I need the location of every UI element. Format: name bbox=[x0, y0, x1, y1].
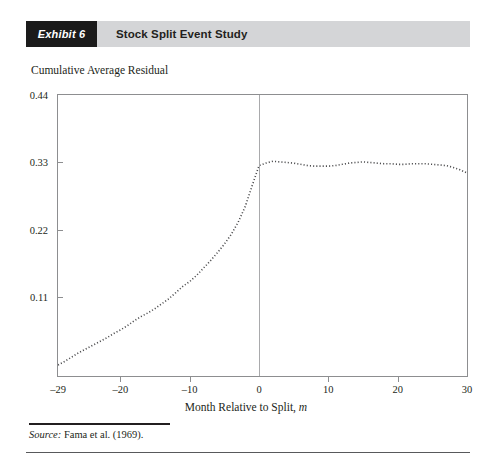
x-tick-label: 10 bbox=[323, 384, 334, 395]
x-tick-label: 0 bbox=[256, 384, 261, 395]
x-axis-title-text: Month Relative to Split, bbox=[185, 401, 299, 413]
plot-frame bbox=[57, 94, 468, 377]
car-series-line bbox=[58, 161, 467, 365]
x-tick-label: –10 bbox=[182, 384, 198, 395]
y-tick-label: 0.22 bbox=[30, 224, 48, 235]
x-tick-label: –29 bbox=[50, 384, 66, 395]
exhibit-header: Exhibit 6 Stock Split Event Study bbox=[26, 21, 470, 47]
y-tick-mark bbox=[57, 230, 63, 231]
exhibit-number-tag: Exhibit 6 bbox=[26, 21, 97, 47]
bottom-rule bbox=[26, 452, 470, 453]
x-axis-title: Month Relative to Split, m bbox=[0, 401, 492, 413]
y-tick-mark bbox=[57, 162, 63, 163]
source-note: Source: Fama et al. (1969). bbox=[29, 429, 144, 440]
x-tick-label: –20 bbox=[113, 384, 129, 395]
exhibit-title: Stock Split Event Study bbox=[97, 21, 470, 47]
event-line-at-split bbox=[259, 95, 260, 376]
x-tick-mark bbox=[190, 377, 191, 382]
car-curve-plot bbox=[58, 95, 467, 376]
exhibit-figure: Exhibit 6 Stock Split Event Study Cumula… bbox=[0, 0, 492, 470]
x-tick-mark bbox=[398, 377, 399, 382]
y-tick-label: 0.11 bbox=[30, 292, 48, 303]
x-axis-title-variable: m bbox=[299, 401, 307, 413]
y-tick-mark bbox=[57, 297, 63, 298]
x-tick-mark bbox=[328, 377, 329, 382]
source-rule bbox=[29, 423, 170, 425]
y-tick-label: 0.33 bbox=[30, 157, 48, 168]
source-text: Fama et al. (1969). bbox=[61, 429, 143, 440]
x-tick-label: 20 bbox=[392, 384, 403, 395]
y-tick-label: 0.44 bbox=[30, 90, 48, 101]
x-tick-mark bbox=[120, 377, 121, 382]
x-tick-label: 30 bbox=[462, 384, 473, 395]
y-axis-title: Cumulative Average Residual bbox=[31, 64, 168, 76]
source-label: Source: bbox=[29, 429, 61, 440]
